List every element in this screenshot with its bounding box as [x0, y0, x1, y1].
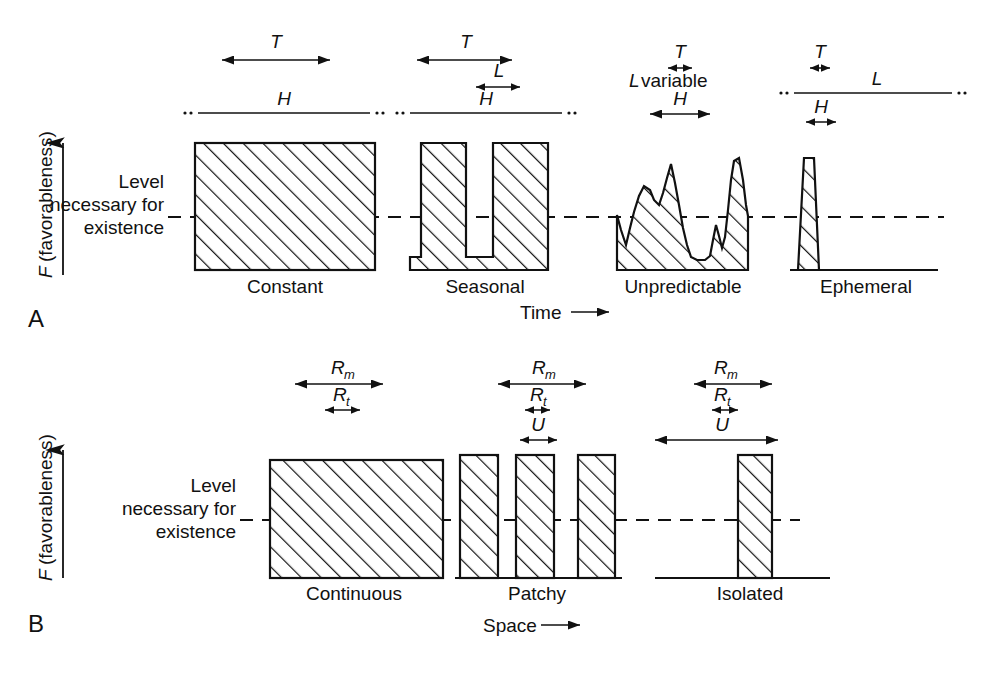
- measure-label-rt-patchy: R: [530, 384, 544, 405]
- measure-label-rt-isolated: R: [714, 384, 728, 405]
- measure-label-t-ephemeral: T: [814, 41, 827, 62]
- panel-b-y-axis-label: (favorableness): [35, 434, 56, 565]
- plot-block-constant: [195, 143, 375, 270]
- panel-label-b: B: [28, 610, 44, 637]
- threshold-caption-line-3: existence: [84, 217, 164, 238]
- measure-label-l-unpredictable: L: [629, 70, 640, 91]
- plot-bar-patchy-2: [516, 455, 554, 578]
- measure-label-u-isolated: U: [715, 414, 729, 435]
- threshold-caption-b-line-1: Level: [191, 475, 236, 496]
- category-label-seasonal: Seasonal: [445, 276, 524, 297]
- measure-label-t-seasonal: T: [460, 31, 473, 52]
- measure-dot-left2-h-constant: [183, 111, 186, 114]
- measure-label-h-seasonal: H: [479, 88, 493, 109]
- measure-label-l-ephemeral: L: [872, 68, 883, 89]
- axis-label-time: Time: [520, 302, 562, 323]
- measure-dot-right-h-seasonal: [567, 111, 570, 114]
- threshold-caption-b-line-3: existence: [156, 521, 236, 542]
- category-label-constant: Constant: [247, 276, 324, 297]
- measure-dot-left-h-seasonal: [401, 111, 404, 114]
- measure-label-l-seasonal: L: [494, 60, 505, 81]
- measure-label-u-patchy: U: [531, 414, 545, 435]
- measure-dot-left-l-ephemeral: [785, 91, 788, 94]
- threshold-caption-line-2: necessary for: [50, 194, 165, 215]
- measure-label-t-constant: T: [270, 31, 283, 52]
- measure-dot-right2-h-constant: [381, 111, 384, 114]
- measure-label-h-constant: H: [277, 88, 291, 109]
- measure-subscript-rm-continuous: m: [344, 367, 355, 382]
- measure-label-h-unpredictable: H: [673, 88, 687, 109]
- category-label-ephemeral: Ephemeral: [820, 276, 912, 297]
- category-label-isolated: Isolated: [717, 583, 784, 604]
- measure-dot-right-l-ephemeral: [957, 91, 960, 94]
- panel-label-a: A: [28, 305, 44, 332]
- measure-dot-right2-l-ephemeral: [963, 91, 966, 94]
- plot-bar-isolated-1: [738, 455, 772, 578]
- measure-label-rm-continuous: R: [331, 357, 345, 378]
- figure-svg: F (favorableness) Level necessary for ex…: [0, 0, 1001, 681]
- category-label-patchy: Patchy: [508, 583, 567, 604]
- measure-label-t-unpredictable: T: [674, 41, 687, 62]
- axis-label-space: Space: [483, 615, 537, 636]
- plot-bar-patchy-1: [460, 455, 498, 578]
- measure-dot-left2-h-seasonal: [395, 111, 398, 114]
- threshold-caption-b-line-2: necessary for: [122, 498, 237, 519]
- plot-block-continuous: [270, 460, 443, 578]
- figure-root: F (favorableness) Level necessary for ex…: [0, 0, 1001, 681]
- measure-subscript-rm-isolated: m: [727, 367, 738, 382]
- category-label-unpredictable: Unpredictable: [624, 276, 741, 297]
- threshold-caption-line-1: Level: [119, 171, 164, 192]
- plot-bar-patchy-3: [578, 455, 615, 578]
- measure-label-rt-continuous: R: [333, 384, 347, 405]
- panel-a-y-axis-symbol: F: [35, 265, 56, 278]
- measure-dot-right2-h-seasonal: [573, 111, 576, 114]
- measure-subscript-rm-patchy: m: [545, 367, 556, 382]
- category-label-continuous: Continuous: [306, 583, 402, 604]
- measure-label-rm-patchy: R: [532, 357, 546, 378]
- panel-b-y-axis-symbol: F: [35, 568, 56, 581]
- measure-label-h-ephemeral: H: [814, 96, 828, 117]
- measure-label-rm-isolated: R: [714, 357, 728, 378]
- measure-dot-left-h-constant: [189, 111, 192, 114]
- measure-dot-right-h-constant: [375, 111, 378, 114]
- measure-dot-left2-l-ephemeral: [779, 91, 782, 94]
